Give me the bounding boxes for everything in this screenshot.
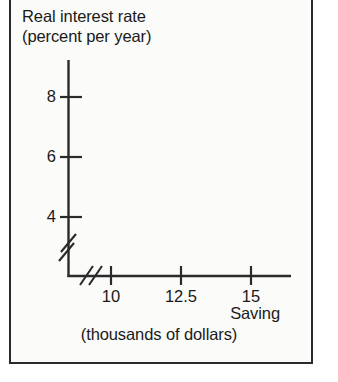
- y-tick-label-8: 8: [30, 87, 56, 106]
- x-axis-title: Saving (thousands of dollars): [20, 303, 298, 345]
- y-tick-label-6: 6: [30, 147, 56, 166]
- x-axis-title-line-1: Saving: [20, 303, 298, 324]
- y-tick-label-4: 4: [30, 207, 56, 226]
- figure-container: Real interest rate (percent per year) 8 …: [0, 0, 338, 382]
- x-axis-title-line-2: (thousands of dollars): [20, 324, 298, 345]
